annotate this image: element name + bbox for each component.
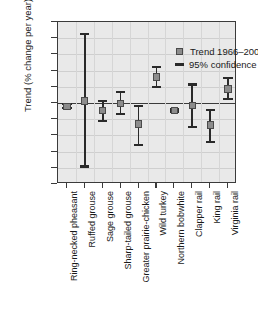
trend-marker: [189, 102, 196, 109]
column-separator: [148, 22, 149, 182]
confidence-line-icon: [175, 63, 184, 66]
column-separator: [94, 22, 95, 182]
confidence-cap-upper: [223, 77, 232, 79]
trend-marker-icon: [176, 48, 183, 55]
x-tick-mark: [84, 183, 85, 188]
x-tick-label: Wild turkey: [159, 191, 168, 236]
x-tick-label: Greater prairie-chicken: [142, 191, 151, 283]
legend-label-trend: Trend 1966–2004: [190, 47, 258, 57]
confidence-cap-lower: [134, 144, 143, 146]
chart-figure: Trend (% change per year) 2520151050-5-1…: [0, 0, 258, 315]
confidence-cap-lower: [152, 86, 161, 88]
column-separator: [76, 22, 77, 182]
x-tick-mark: [138, 183, 139, 188]
confidence-cap-upper: [98, 100, 107, 102]
x-tick-label: Virginia rail: [231, 191, 240, 235]
trend-marker: [171, 107, 178, 114]
x-tick-mark: [102, 183, 103, 188]
column-separator: [130, 22, 131, 182]
x-tick-mark: [227, 183, 228, 188]
trend-marker: [117, 100, 124, 107]
confidence-cap-upper: [152, 66, 161, 68]
confidence-cap-lower: [98, 120, 107, 122]
x-tick-mark: [173, 183, 174, 188]
x-tick-label: Ring-necked pheasant: [70, 191, 79, 281]
legend-item-ci: 95% confidence limits: [176, 58, 258, 71]
x-tick-label: Sage grouse: [106, 191, 115, 242]
confidence-cap-lower: [80, 165, 89, 167]
chart-legend: Trend 1966–2004 95% confidence limits: [176, 45, 258, 71]
x-tick-mark: [155, 183, 156, 188]
trend-marker: [99, 107, 106, 114]
y-axis-title: Trend (% change per year): [22, 0, 33, 141]
trend-marker: [63, 103, 70, 110]
x-tick-label: Ruffed grouse: [88, 191, 97, 247]
column-separator: [165, 22, 166, 182]
confidence-cap-lower: [223, 98, 232, 100]
confidence-cap-upper: [206, 109, 215, 111]
x-tick-mark: [209, 183, 210, 188]
confidence-cap-lower: [116, 113, 125, 115]
trend-marker: [153, 73, 160, 80]
x-tick-label: Clapper rail: [195, 191, 204, 237]
x-tick-label: Northern bobwhite: [177, 191, 186, 265]
y-tick-mark: [51, 183, 57, 184]
column-separator: [112, 22, 113, 182]
legend-item-trend: Trend 1966–2004: [176, 45, 258, 58]
x-tick-mark: [66, 183, 67, 188]
x-tick-mark: [120, 183, 121, 188]
trend-marker: [135, 120, 142, 127]
confidence-cap-lower: [188, 126, 197, 128]
gridline: [58, 168, 235, 169]
trend-marker: [207, 121, 214, 128]
x-tick-label: Sharp-tailed grouse: [124, 191, 133, 270]
plot-area: Trend 1966–2004 95% confidence limits: [57, 21, 236, 183]
x-tick-mark: [191, 183, 192, 188]
trend-marker: [224, 85, 231, 92]
legend-label-ci: 95% confidence limits: [189, 60, 258, 70]
confidence-cap-lower: [206, 141, 215, 143]
confidence-cap-upper: [188, 83, 197, 85]
x-tick-label: King rail: [213, 191, 222, 224]
trend-marker: [81, 97, 88, 104]
confidence-cap-upper: [116, 91, 125, 93]
confidence-cap-upper: [134, 105, 143, 107]
confidence-cap-upper: [80, 33, 89, 35]
